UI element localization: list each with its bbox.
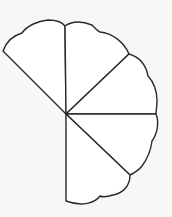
fan-svg: [0, 0, 172, 217]
scalloped-fan-diagram: [0, 0, 172, 217]
sector-upper-left: [3, 20, 66, 114]
